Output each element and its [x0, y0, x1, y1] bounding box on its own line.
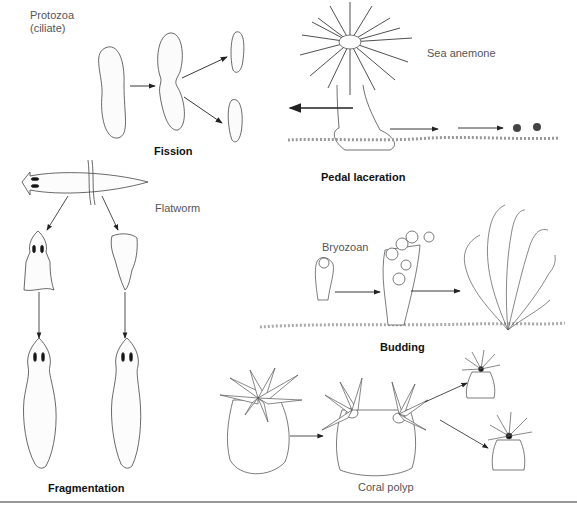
sea-anemone-large — [300, 2, 412, 150]
paramecium-dividing — [158, 33, 185, 130]
asexual-reproduction-diagram: Protozoa (ciliate) Fission Sea anemone P… — [0, 0, 577, 510]
seafloor-pedal — [288, 137, 560, 140]
title-budding: Budding — [380, 341, 425, 353]
title-pedal-laceration: Pedal laceration — [321, 171, 405, 183]
flatworm-regenerated-right — [111, 338, 140, 468]
illustration-canvas — [0, 0, 577, 510]
bryozoan-budded — [383, 231, 434, 325]
small-anemones — [513, 123, 541, 132]
paramecium-parent — [99, 47, 126, 138]
coral-polyp-daughter-bottom — [488, 412, 532, 470]
bryozoan-single — [315, 257, 333, 300]
flatworm-head-fragment — [24, 231, 54, 290]
flatworm-tail-fragment — [111, 234, 137, 290]
seafloor-bryozoan — [260, 323, 565, 327]
coral-polyp-double — [322, 378, 428, 476]
label-protozoa: Protozoa (ciliate) — [30, 9, 74, 35]
label-sea-anemone: Sea anemone — [427, 47, 496, 60]
title-fission: Fission — [154, 145, 193, 157]
paramecium-daughter-bottom — [228, 100, 242, 142]
label-coral-polyp: Coral polyp — [358, 481, 414, 494]
label-bryozoan: Bryozoan — [322, 241, 368, 254]
title-fragmentation: Fragmentation — [48, 482, 124, 494]
paramecium-daughter-top — [231, 32, 244, 72]
flatworm-whole — [22, 160, 148, 205]
flatworm-regenerated-left — [23, 338, 56, 468]
bryozoan-colony — [464, 205, 555, 330]
label-flatworm: Flatworm — [155, 202, 200, 215]
coral-polyp-daughter-top — [462, 350, 500, 398]
coral-polyp-single — [220, 368, 302, 474]
